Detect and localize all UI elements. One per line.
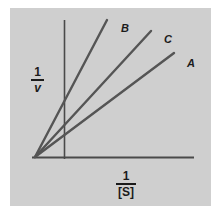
y-axis-label-denominator: v	[32, 81, 43, 94]
plot-panel: 1 v 1 [S] B C A	[10, 8, 211, 206]
x-axis-label: 1 [S]	[116, 170, 136, 198]
y-axis-label: 1 v	[31, 66, 44, 94]
data-line-c	[35, 31, 151, 157]
figure-lineweaver-burk-plot: 1 v 1 [S] B C A	[0, 0, 224, 218]
x-axis-label-denominator: [S]	[116, 185, 136, 198]
data-line-a	[35, 53, 174, 157]
curve-label-c: C	[164, 34, 172, 45]
plot-canvas	[10, 8, 211, 206]
x-axis-label-numerator: 1	[121, 170, 132, 183]
y-axis-label-numerator: 1	[32, 66, 43, 79]
curve-label-a: A	[187, 58, 195, 69]
curve-label-b: B	[121, 23, 129, 34]
data-line-b	[35, 20, 107, 157]
